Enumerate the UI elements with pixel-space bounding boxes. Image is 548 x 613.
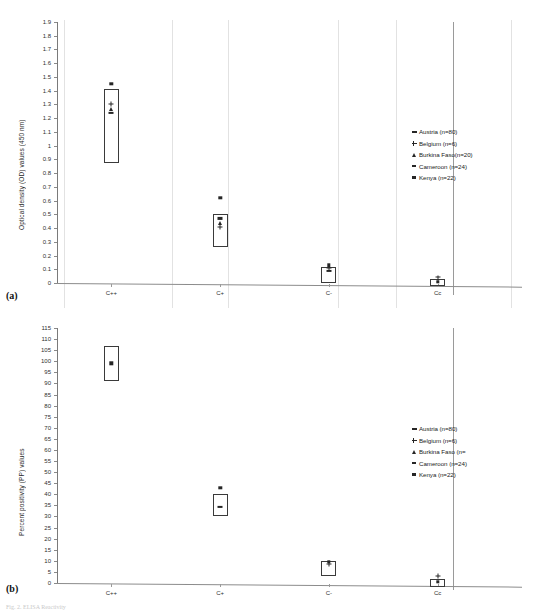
x-tick-label: Cc	[434, 590, 441, 596]
x-tick-label: C+	[216, 590, 224, 596]
y-tick-mark	[54, 104, 57, 105]
belgium-marker-icon	[410, 438, 418, 443]
data-point-marker-icon	[436, 280, 439, 283]
y-tick-label: 110	[25, 336, 51, 342]
y-tick-label: 1.3	[25, 101, 51, 107]
y-tick-label: 90	[25, 380, 51, 386]
y-tick-mark	[54, 187, 57, 188]
y-tick-mark	[54, 550, 57, 551]
y-tick-mark	[54, 328, 57, 329]
legend-item: Kenya (n=22)	[410, 469, 540, 481]
y-tick-mark	[54, 472, 57, 473]
figure-page: Optical density (OD) values (450 nm) (a)…	[0, 0, 548, 613]
y-tick-mark	[54, 428, 57, 429]
y-tick-mark	[54, 516, 57, 517]
x-tick-mark	[111, 584, 112, 587]
legend-item-label: Burkina Faso(n=20)	[419, 151, 473, 158]
y-tick-mark	[54, 242, 57, 243]
legend-item-label: Belgium (n=6)	[419, 437, 457, 444]
x-tick-label: C-	[326, 290, 332, 296]
y-tick-label: 0	[25, 580, 51, 586]
y-tick-label: 95	[25, 369, 51, 375]
y-tick-label: 1.9	[25, 19, 51, 25]
y-tick-label: 1.2	[25, 115, 51, 121]
data-point-marker-icon	[109, 112, 114, 114]
y-tick-mark	[54, 22, 57, 23]
y-tick-mark	[54, 395, 57, 396]
legend-item: Kenya (n=22)	[410, 172, 540, 184]
cameroon-marker-icon	[412, 462, 416, 464]
x-tick-label: Cc	[434, 290, 441, 296]
austria-marker-icon	[410, 131, 418, 133]
y-tick-label: 15	[25, 547, 51, 553]
y-tick-label: 115	[25, 325, 51, 331]
data-point-marker-icon	[218, 217, 223, 219]
y-tick-mark	[54, 63, 57, 64]
y-tick-label: 50	[25, 469, 51, 475]
panel-a-legend: Austria (n=80)Belgium (n=6)Burkina Faso(…	[410, 126, 540, 184]
belgium-marker-icon	[412, 438, 417, 443]
y-tick-label: 55	[25, 458, 51, 464]
y-tick-mark	[54, 461, 57, 462]
y-tick-label: 0.3	[25, 239, 51, 245]
cameroon-marker-icon	[410, 165, 418, 167]
y-tick-mark	[54, 572, 57, 573]
cameroon-marker-icon	[412, 165, 416, 167]
y-tick-label: 25	[25, 525, 51, 531]
burkina-faso-marker-icon	[410, 153, 418, 157]
y-tick-label: 0	[25, 280, 51, 286]
legend-item: Belgium (n=6)	[410, 435, 540, 447]
x-tick-label: C-	[326, 590, 332, 596]
x-tick-label: C++	[106, 590, 117, 596]
legend-item-label: Austria (n=80)	[419, 425, 457, 432]
data-point-marker-icon	[435, 574, 440, 579]
y-tick-mark	[54, 269, 57, 270]
y-tick-label: 65	[25, 436, 51, 442]
y-tick-label: 0.1	[25, 266, 51, 272]
y-tick-mark	[54, 406, 57, 407]
y-axis-line	[57, 328, 58, 584]
gridline	[396, 20, 397, 308]
data-point-marker-icon	[218, 486, 221, 489]
data-point-marker-icon	[218, 505, 223, 507]
legend-item: Burkina Faso(n=20)	[410, 149, 540, 161]
y-tick-label: 70	[25, 425, 51, 431]
data-point-marker-icon	[110, 82, 113, 85]
y-tick-mark	[54, 505, 57, 506]
x-tick-mark	[220, 584, 221, 587]
y-tick-mark	[54, 201, 57, 202]
y-tick-label: 60	[25, 447, 51, 453]
y-tick-label: 0.7	[25, 184, 51, 190]
panel-a: Optical density (OD) values (450 nm) (a)…	[0, 0, 548, 315]
y-tick-mark	[54, 417, 57, 418]
y-tick-label: 0.2	[25, 253, 51, 259]
y-tick-mark	[54, 439, 57, 440]
legend-item: Austria (n=80)	[410, 423, 540, 435]
data-point-marker-icon	[326, 270, 331, 272]
burkina-faso-marker-icon	[412, 450, 416, 454]
y-tick-label: 10	[25, 558, 51, 564]
legend-item-label: Belgium (n=6)	[419, 140, 457, 147]
legend-item-label: Cameroon (n=24)	[419, 460, 467, 467]
cameroon-marker-icon	[410, 462, 418, 464]
y-tick-mark	[54, 228, 57, 229]
legend-item: Cameroon (n=24)	[410, 161, 540, 173]
legend-item: Cameroon (n=24)	[410, 458, 540, 470]
x-tick-label: C+	[216, 290, 224, 296]
gridline	[228, 20, 229, 308]
y-tick-label: 0.9	[25, 156, 51, 162]
box-plot-box	[104, 89, 119, 163]
legend-item: Belgium (n=6)	[410, 138, 540, 150]
y-tick-label: 20	[25, 536, 51, 542]
y-tick-mark	[54, 49, 57, 50]
legend-item-label: Cameroon (n=24)	[419, 163, 467, 170]
austria-marker-icon	[412, 131, 417, 133]
y-tick-label: 35	[25, 502, 51, 508]
x-tick-mark	[329, 584, 330, 587]
y-tick-label: 1.8	[25, 33, 51, 39]
y-tick-mark	[54, 173, 57, 174]
austria-marker-icon	[412, 428, 417, 430]
y-tick-label: 80	[25, 403, 51, 409]
y-tick-mark	[54, 146, 57, 147]
y-tick-mark	[54, 36, 57, 37]
